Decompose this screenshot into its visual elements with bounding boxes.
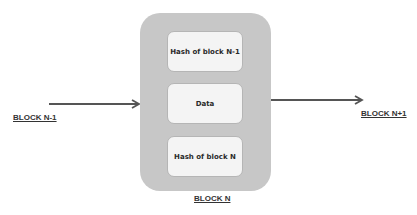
hash-prev-field: Hash of block N-1 — [167, 31, 243, 72]
arrow-to-next-block — [271, 96, 362, 104]
hash-current-field: Hash of block N — [167, 136, 243, 177]
block-n-container: Hash of block N-1 Data Hash of block N — [140, 13, 271, 191]
block-n-label: BLOCK N — [194, 194, 230, 203]
next-block-label: BLOCK N+1 — [361, 109, 407, 118]
previous-block-label: BLOCK N-1 — [13, 113, 57, 122]
data-field: Data — [167, 83, 243, 124]
arrow-from-previous-block — [49, 100, 139, 108]
